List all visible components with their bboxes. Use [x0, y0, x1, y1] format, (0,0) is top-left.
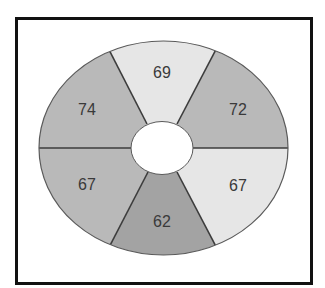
segment-label-top: 69 — [153, 64, 171, 81]
segment-label-lower-left: 67 — [78, 176, 96, 193]
segment-label-upper-right: 72 — [229, 101, 247, 118]
segment-label-upper-left: 74 — [78, 101, 96, 118]
segment-label-bottom: 62 — [153, 213, 171, 230]
ring-center-hole — [131, 122, 193, 175]
segmented-ring-diagram: 69 72 67 62 67 74 — [0, 0, 325, 288]
segment-label-lower-right: 67 — [229, 177, 247, 194]
diagram-canvas: 69 72 67 62 67 74 — [0, 0, 325, 288]
